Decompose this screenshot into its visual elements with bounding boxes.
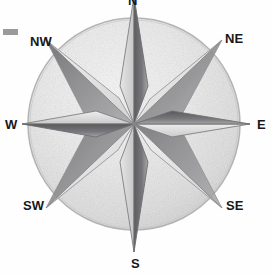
- compass-rose-image: N NE E SE S SW W NW: [0, 0, 271, 277]
- compass-label-ne: NE: [225, 32, 243, 45]
- compass-label-s: S: [131, 257, 140, 270]
- compass-label-sw: SW: [23, 199, 44, 212]
- compass-label-e: E: [257, 118, 266, 131]
- compass-hub: [132, 122, 136, 126]
- compass-label-w: W: [5, 118, 17, 131]
- corner-artifact-mark: [3, 29, 18, 35]
- compass-label-n: N: [128, 0, 138, 7]
- compass-label-nw: NW: [30, 35, 52, 48]
- compass-label-se: SE: [226, 199, 244, 212]
